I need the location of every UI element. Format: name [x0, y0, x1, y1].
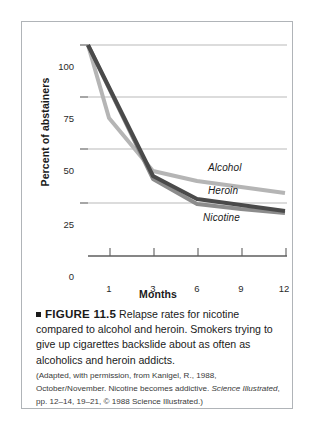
caption-figure-number: FIGURE 11.5 — [45, 307, 116, 320]
series-label-heroin: Heroin — [208, 185, 238, 196]
caption-source-journal: Science Illustrated — [211, 384, 277, 393]
caption-main: FIGURE 11.5 Relapse rates for nicotine c… — [36, 306, 282, 368]
x-axis-title: Months — [22, 288, 293, 300]
axes — [80, 45, 287, 256]
series-line-alcohol — [88, 45, 285, 193]
series-label-nicotine: Nicotine — [203, 212, 240, 223]
figure-caption: FIGURE 11.5 Relapse rates for nicotine c… — [36, 306, 282, 408]
series-paths — [88, 45, 285, 213]
caption-source-open: (Adapted, with permission, from Kanigel,… — [36, 371, 216, 393]
chart-plot-area: Percent of abstainers 100 75 50 25 0 1 3… — [22, 22, 293, 276]
caption-bullet-square-icon — [36, 312, 41, 317]
caption-source: (Adapted, with permission, from Kanigel,… — [36, 369, 282, 408]
series-label-alcohol: Alcohol — [208, 162, 242, 173]
line-chart-svg — [22, 22, 293, 280]
figure-card: Percent of abstainers 100 75 50 25 0 1 3… — [21, 21, 293, 409]
